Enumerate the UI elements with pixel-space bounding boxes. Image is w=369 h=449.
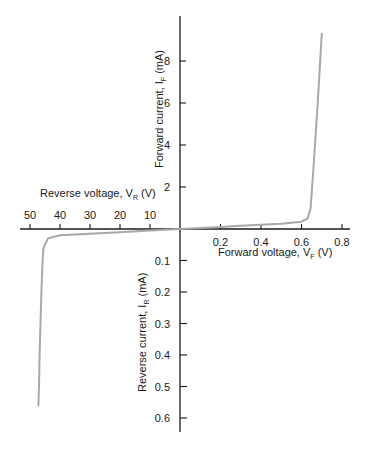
forward-current-axis-title: Forward current, IF (mA) [153,50,167,168]
reverse-current-tick-label: 0.5 [155,381,170,393]
forward-voltage-tick-label: 0.8 [334,236,349,248]
axes [20,16,350,432]
reverse-voltage-tick-label: 30 [84,209,96,221]
reverse-voltage-tick-label: 20 [114,209,126,221]
reverse-current-tick-label: 0.6 [155,412,170,424]
reverse-voltage-tick-label: 50 [24,209,36,221]
reverse-voltage-tick-label: 10 [144,209,156,221]
tick-labels: 0.20.40.60.8246850403020100.10.20.30.40.… [24,55,350,424]
reverse-current-tick-label: 0.3 [155,318,170,330]
reverse-current-tick-label: 0.4 [155,349,170,361]
reverse-voltage-axis-title: Reverse voltage, VR (V) [40,187,156,201]
reverse-current-axis-title: Reverse current, IR (mA) [136,273,150,392]
forward-curve [180,34,322,229]
forward-current-tick-label: 2 [164,181,170,193]
reverse-current-tick-label: 0.1 [155,255,170,267]
diode-iv-chart: 0.20.40.60.8246850403020100.10.20.30.40.… [0,0,369,449]
reverse-voltage-tick-label: 40 [54,209,66,221]
forward-voltage-axis-title: Forward voltage, VF (V) [218,246,332,260]
reverse-current-tick-label: 0.2 [155,286,170,298]
